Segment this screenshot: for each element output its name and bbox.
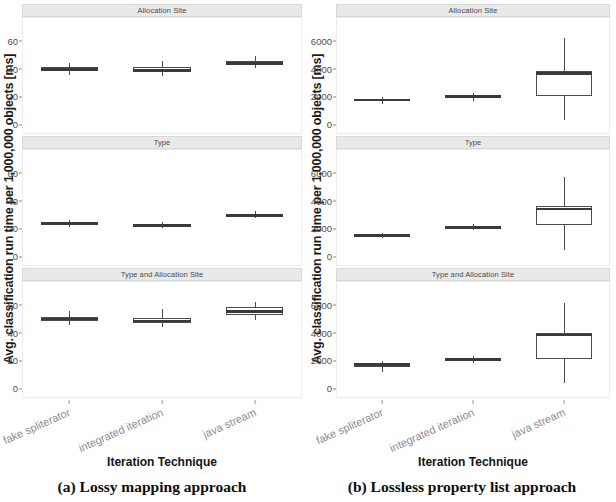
facet-strip-label: Allocation Site <box>137 6 186 15</box>
boxplot-median <box>354 363 410 366</box>
boxplot-whisker-upper <box>473 224 474 226</box>
boxplot-median <box>133 320 190 323</box>
boxplot-whisker-upper <box>255 211 256 214</box>
x-axis-title-b: Iteration Technique <box>336 455 610 469</box>
facet-plot-area <box>336 17 610 134</box>
x-axis-title-a: Iteration Technique <box>22 455 302 469</box>
y-axis-title-b-text: Avg. classification run time per 1,000,0… <box>310 54 324 364</box>
facet-strip-label: Type <box>154 138 171 147</box>
boxplot-box <box>536 333 592 359</box>
facet-strip: Type and Allocation Site <box>22 268 302 281</box>
boxplot-whisker-upper <box>382 97 383 99</box>
facet-plot-area <box>22 149 302 266</box>
boxplot-whisker-lower <box>255 217 256 218</box>
subfigure-caption-b: (b) Lossless property list approach <box>308 478 616 496</box>
boxplot-median <box>536 334 592 337</box>
x-tick-label: integrated iteration <box>388 406 476 454</box>
boxplot-median <box>536 72 592 75</box>
boxplot-whisker-upper <box>564 38 565 71</box>
boxplot-whisker-upper <box>162 309 163 318</box>
facet-panel: Allocation Site0200040006000 <box>336 4 610 134</box>
x-tick-label: java stream <box>201 406 258 440</box>
boxplot-whisker-upper <box>69 63 70 68</box>
boxplot-whisker-lower <box>162 72 163 76</box>
boxplot-whisker-lower <box>564 359 565 383</box>
facet-strip-label: Allocation Site <box>448 6 497 15</box>
facet-panel: Allocation Site0204060 <box>22 4 302 134</box>
boxplot-whisker-upper <box>473 93 474 95</box>
boxplot-whisker-lower <box>255 315 256 320</box>
boxplot-whisker-lower <box>382 236 383 237</box>
boxplot-whisker-lower <box>473 228 474 230</box>
facet-panel: Type0204060 <box>22 136 302 266</box>
boxplot-whisker-upper <box>382 233 383 235</box>
box-group <box>337 282 609 397</box>
boxplot-whisker-lower <box>255 65 256 68</box>
facet-strip-label: Type and Allocation Site <box>121 270 203 279</box>
boxplot-whisker-lower <box>564 96 565 120</box>
boxplot-whisker-lower <box>473 98 474 101</box>
x-tick-label: java stream <box>510 406 567 440</box>
facet-strip: Allocation Site <box>336 4 610 17</box>
boxplot-whisker-upper <box>382 361 383 363</box>
boxplot-whisker-upper <box>69 220 70 223</box>
x-tick-labels: fake spliteratorintegrated iterationjava… <box>22 400 302 440</box>
box-group <box>23 150 301 265</box>
y-tick-label: 0 <box>327 119 332 130</box>
panel-stack-a: Allocation Site0204060Type0204060Type an… <box>22 4 302 502</box>
boxplot-median <box>226 310 283 313</box>
facet-strip-label: Type <box>465 138 482 147</box>
boxplot-whisker-upper <box>255 56 256 62</box>
subfigure-a: Avg. classification run time per 1,000,0… <box>0 0 308 502</box>
x-tick-label: integrated iteration <box>77 406 165 454</box>
boxplot-whisker-upper <box>564 303 565 333</box>
boxplot-whisker-lower <box>382 367 383 373</box>
boxplot-median <box>41 318 98 321</box>
facet-panel: Type and Allocation Site0204060 <box>22 268 302 398</box>
y-axis-title-a-text: Avg. classification run time per 1,000,0… <box>2 54 16 364</box>
boxplot-median <box>133 69 190 72</box>
boxplot-whisker-upper <box>473 356 474 358</box>
x-tick-labels: fake spliteratorintegrated iterationjava… <box>336 400 610 440</box>
boxplot-whisker-upper <box>162 61 163 67</box>
box-group <box>23 18 301 133</box>
boxplot-whisker-lower <box>69 71 70 75</box>
y-tick-label: 0 <box>327 383 332 394</box>
facet-plot-area <box>336 281 610 398</box>
facet-plot-area <box>22 17 302 134</box>
facet-strip: Type <box>336 136 610 149</box>
boxplot-whisker-upper <box>162 222 163 224</box>
boxplot-whisker-lower <box>162 227 163 228</box>
facet-strip: Type <box>22 136 302 149</box>
boxplot-median <box>226 62 283 65</box>
box-group <box>337 18 609 133</box>
panel-stack-b: Allocation Site0200040006000Type02000400… <box>336 4 610 502</box>
y-tick-label: 0 <box>327 251 332 262</box>
box-group <box>23 282 301 397</box>
facet-panel: Type0200040006000 <box>336 136 610 266</box>
facet-plot-area <box>336 149 610 266</box>
boxplot-whisker-upper <box>255 302 256 308</box>
boxplot-whisker-lower <box>564 225 565 250</box>
facet-strip: Type and Allocation Site <box>336 268 610 281</box>
facet-strip: Allocation Site <box>22 4 302 17</box>
y-axis-title-a: Avg. classification run time per 1,000,0… <box>0 0 18 418</box>
boxplot-whisker-lower <box>69 225 70 226</box>
facet-strip-label: Type and Allocation Site <box>432 270 514 279</box>
boxplot-whisker-lower <box>162 323 163 326</box>
boxplot-whisker-lower <box>69 321 70 325</box>
boxplot-whisker-upper <box>564 177 565 207</box>
box-group <box>337 150 609 265</box>
facet-panel: Type and Allocation Site0200040006000 <box>336 268 610 398</box>
boxplot-whisker-lower <box>473 361 474 363</box>
boxplot-whisker-lower <box>382 101 383 104</box>
y-axis-title-b: Avg. classification run time per 1,000,0… <box>308 0 326 418</box>
subfigure-b: Avg. classification run time per 1,000,0… <box>308 0 616 502</box>
boxplot-median <box>536 208 592 211</box>
subfigure-caption-a: (a) Lossy mapping approach <box>0 478 308 496</box>
boxplot-whisker-upper <box>69 311 70 317</box>
boxplot-figure: Avg. classification run time per 1,000,0… <box>0 0 616 502</box>
facet-plot-area <box>22 281 302 398</box>
